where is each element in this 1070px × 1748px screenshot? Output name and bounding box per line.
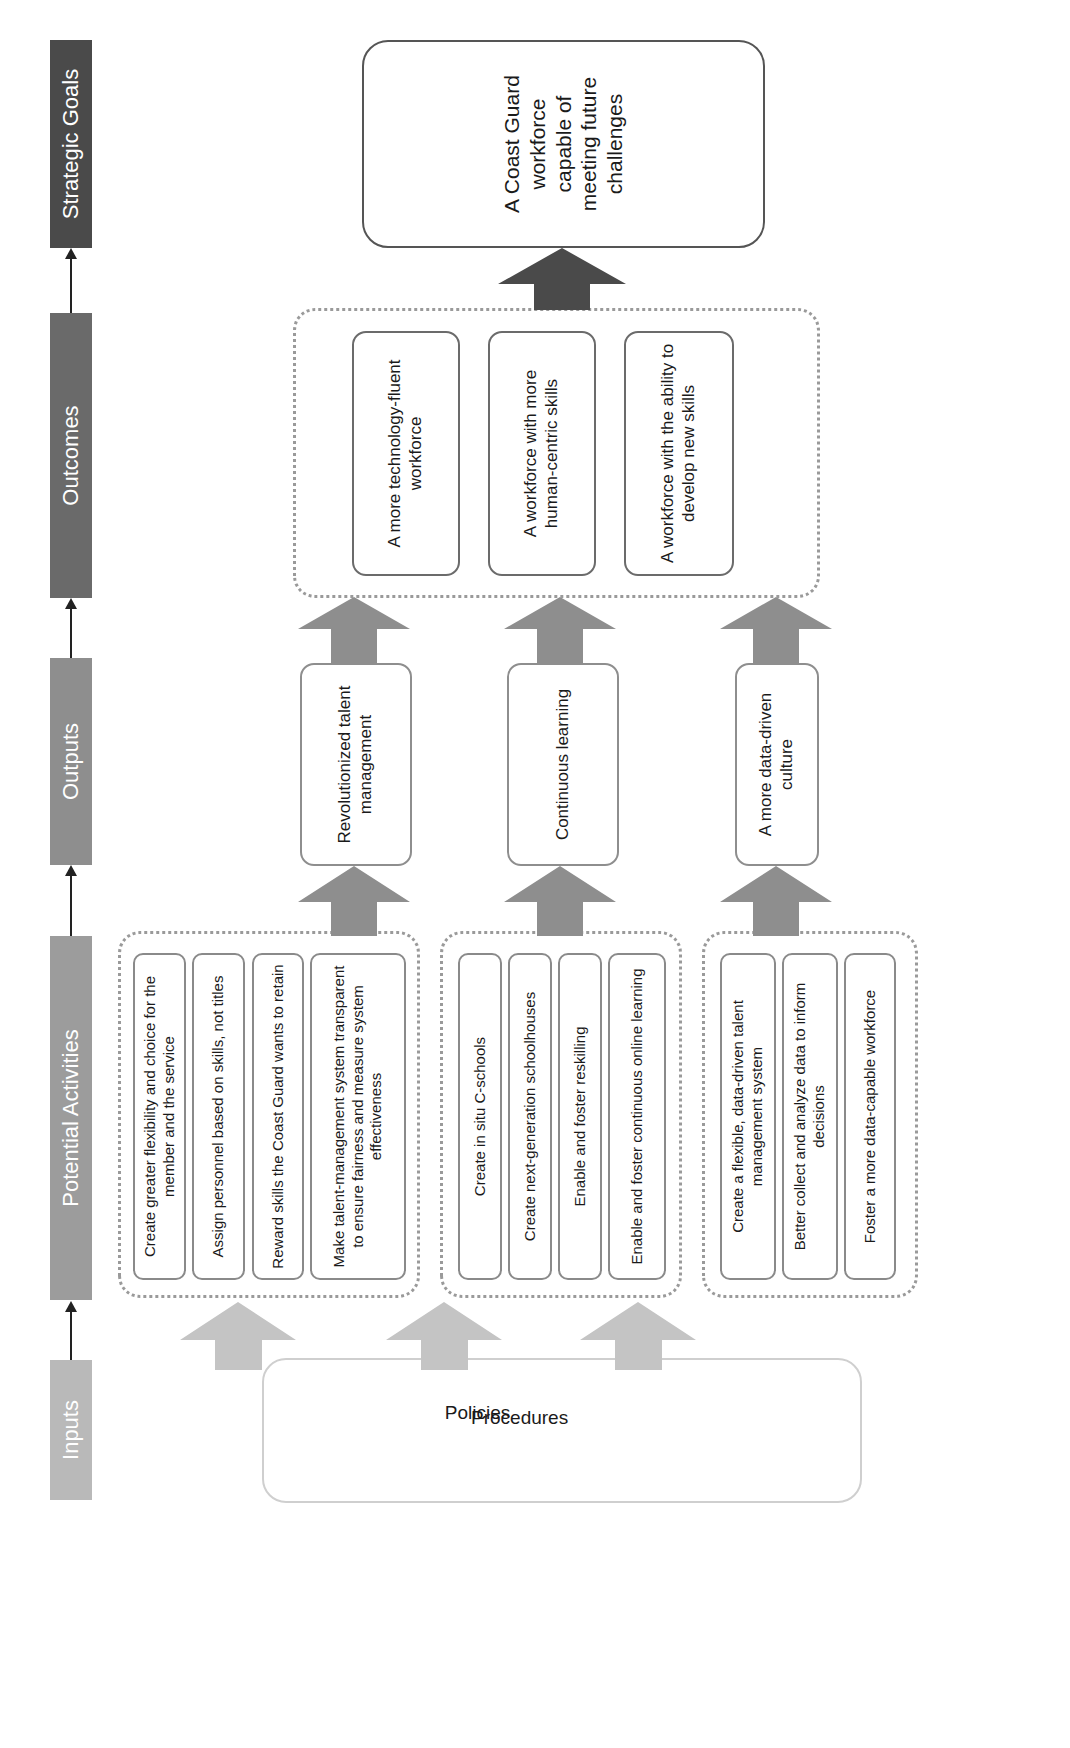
big-arrow-right-icon bbox=[498, 240, 628, 310]
activity-1-2: Assign personnel based on skills, not ti… bbox=[192, 953, 245, 1280]
output-data-driven-culture: A more data-driven culture bbox=[735, 663, 819, 866]
outcome-human-centric-skills: A workforce with more human-centric skil… bbox=[488, 331, 596, 576]
activity-3-3: Foster a more data-capable workforce bbox=[844, 953, 896, 1280]
stage-label-inputs: Inputs bbox=[58, 1400, 84, 1460]
stage-bar-potential-activities: Potential Activities bbox=[50, 936, 92, 1300]
stage-bar-strategic-goals: Strategic Goals bbox=[50, 40, 92, 248]
activity-2-2: Create next-generation schoolhouses bbox=[508, 953, 552, 1280]
stage-label-strategic-goals: Strategic Goals bbox=[58, 69, 84, 219]
big-arrow-right-icon bbox=[720, 866, 840, 936]
big-arrow-right-icon bbox=[298, 593, 418, 663]
activity-3-1: Create a flexible, data-driven talent ma… bbox=[720, 953, 776, 1280]
activity-2-3: Enable and foster reskilling bbox=[558, 953, 602, 1280]
activity-3-2: Better collect and analyze data to infor… bbox=[782, 953, 838, 1280]
activity-2-1: Create in situ C-schools bbox=[458, 953, 502, 1280]
arrowhead-icon bbox=[65, 248, 77, 259]
arrowhead-icon bbox=[65, 865, 77, 876]
stage-bar-outputs: Outputs bbox=[50, 658, 92, 865]
activity-2-4: Enable and foster continuous online lear… bbox=[608, 953, 666, 1280]
big-arrow-right-icon bbox=[298, 866, 418, 936]
stage-label-potential-activities: Potential Activities bbox=[58, 1029, 84, 1206]
up-arrow-icon bbox=[0, 1298, 1070, 1358]
activity-1-4: Make talent-management system transparen… bbox=[310, 953, 406, 1280]
output-revolutionized-talent-management: Revolutionized talent management bbox=[300, 663, 412, 866]
big-arrow-right-icon bbox=[504, 866, 624, 936]
big-arrow-right-icon bbox=[180, 1300, 310, 1370]
outcome-ability-to-develop-skills: A workforce with the ability to develop … bbox=[624, 331, 734, 576]
inputs-box bbox=[262, 1358, 862, 1503]
stage-bar-outcomes: Outcomes bbox=[50, 313, 92, 598]
arrowhead-icon bbox=[65, 598, 77, 609]
logic-model-diagram: Inputs Potential Activities Outputs Outc… bbox=[0, 0, 1070, 1748]
strategic-goal-box: A Coast Guard workforce capable of meeti… bbox=[362, 40, 765, 248]
big-arrow-right-icon bbox=[504, 593, 624, 663]
input-procedures: Procedures bbox=[460, 1406, 580, 1429]
big-arrow-right-icon bbox=[386, 1300, 516, 1370]
big-arrow-right-icon bbox=[580, 1300, 710, 1370]
stage-bar-inputs: Inputs bbox=[50, 1360, 92, 1500]
stage-label-outcomes: Outcomes bbox=[58, 405, 84, 505]
activity-1-3: Reward skills the Coast Guard wants to r… bbox=[252, 953, 304, 1280]
big-arrow-right-icon bbox=[720, 593, 840, 663]
stage-label-outputs: Outputs bbox=[58, 723, 84, 800]
output-continuous-learning: Continuous learning bbox=[507, 663, 619, 866]
outcome-technology-fluent-workforce: A more technology-fluent workforce bbox=[352, 331, 460, 576]
activity-1-1: Create greater flexibility and choice fo… bbox=[133, 953, 186, 1280]
